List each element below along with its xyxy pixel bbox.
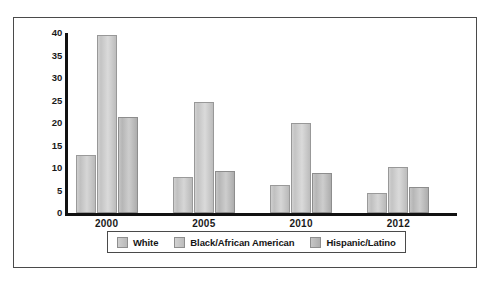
bar-2012-series-0	[367, 193, 387, 213]
y-tick-label: 15	[40, 141, 62, 151]
bar-2010-series-0	[270, 185, 290, 213]
y-tick-label: 30	[40, 73, 62, 83]
bar-2000-series-1	[97, 35, 117, 213]
y-tick-label: 35	[40, 51, 62, 61]
legend-label: Black/African American	[190, 237, 294, 248]
legend-label: White	[133, 237, 158, 248]
bar-2005-series-0	[173, 177, 193, 213]
bar-2000-series-2	[118, 117, 138, 213]
legend-swatch-icon	[310, 237, 321, 248]
legend-swatch-icon	[174, 237, 185, 248]
chart-figure: 0510152025303540 2000200520102012 WhiteB…	[0, 0, 490, 282]
y-tick-label: 25	[40, 96, 62, 106]
bar-2012-series-1	[388, 167, 408, 213]
x-tick-label: 2005	[169, 218, 239, 229]
y-tick-label: 0	[40, 208, 62, 218]
x-tick-label: 2010	[266, 218, 336, 229]
y-tick-label: 40	[40, 28, 62, 38]
y-axis-tick-labels: 0510152025303540	[34, 18, 62, 269]
legend-entry: Hispanic/Latino	[310, 237, 395, 248]
plot-area: 0510152025303540 2000200520102012 WhiteB…	[14, 18, 478, 269]
bar-2005-series-1	[194, 102, 214, 213]
x-tick-label: 2000	[72, 218, 142, 229]
bar-2012-series-2	[409, 187, 429, 213]
y-tick-label: 10	[40, 163, 62, 173]
chart-legend: WhiteBlack/African AmericanHispanic/Lati…	[107, 231, 406, 253]
bar-2010-series-2	[312, 173, 332, 213]
y-tick-label: 5	[40, 186, 62, 196]
x-tick-label: 2012	[363, 218, 433, 229]
legend-swatch-icon	[117, 237, 128, 248]
legend-entry: White	[117, 237, 158, 248]
legend-entry: Black/African American	[174, 237, 294, 248]
chart-frame: 0510152025303540 2000200520102012 WhiteB…	[13, 17, 477, 268]
legend-label: Hispanic/Latino	[326, 237, 395, 248]
bar-2000-series-0	[76, 155, 96, 214]
y-tick-label: 20	[40, 118, 62, 128]
bar-2005-series-2	[215, 171, 235, 213]
bar-2010-series-1	[291, 123, 311, 213]
